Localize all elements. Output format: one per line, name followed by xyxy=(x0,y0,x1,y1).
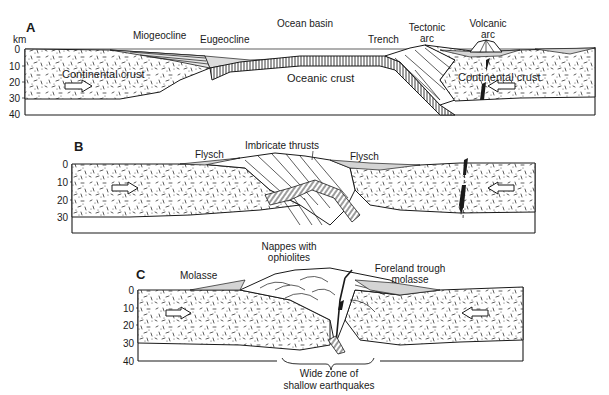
svg-text:30: 30 xyxy=(57,212,69,223)
svg-text:0: 0 xyxy=(128,285,134,296)
panel-letter-b: B xyxy=(74,139,83,154)
label-trench: Trench xyxy=(368,34,399,45)
svg-text:30: 30 xyxy=(123,338,135,349)
svg-text:40: 40 xyxy=(123,356,135,367)
molasse-left xyxy=(190,280,245,290)
label-shallow-earthquakes: Wide zone of xyxy=(300,368,359,379)
svg-text:arc: arc xyxy=(420,33,434,44)
orogeny-cross-section-diagram: A km 0 10 20 30 40 xyxy=(0,0,609,395)
svg-text:0: 0 xyxy=(14,44,20,55)
label-continental-crust-left: Continental crust xyxy=(62,68,145,80)
label-tectonic-arc: Tectonic xyxy=(409,22,446,33)
continental-crust-right-c xyxy=(345,287,523,345)
svg-text:molasse: molasse xyxy=(391,274,429,285)
label-nappes-with-ophiolites: Nappes with xyxy=(261,241,316,252)
svg-text:30: 30 xyxy=(9,93,21,104)
svg-text:10: 10 xyxy=(57,177,69,188)
svg-text:10: 10 xyxy=(123,303,135,314)
panel-a: A km 0 10 20 30 40 xyxy=(9,18,595,120)
slab-remnant-c xyxy=(328,336,345,354)
svg-text:ophiolites: ophiolites xyxy=(268,252,310,263)
label-oceanic-crust: Oceanic crust xyxy=(287,72,354,84)
panel-letter-c: C xyxy=(136,267,146,282)
label-eugeocline: Eugeocline xyxy=(200,34,250,45)
label-flysch-left: Flysch xyxy=(195,149,224,160)
svg-text:shallow earthquakes: shallow earthquakes xyxy=(283,380,374,391)
label-imbricate-thrusts: Imbricate thrusts xyxy=(245,140,319,151)
panel-letter-a: A xyxy=(26,20,36,35)
label-volcanic-arc: Volcanic xyxy=(469,18,506,29)
label-continental-crust-right: Continental crust xyxy=(458,71,541,83)
svg-text:arc: arc xyxy=(481,29,495,40)
svg-text:20: 20 xyxy=(123,320,135,331)
label-miogeocline: Miogeocline xyxy=(133,30,187,41)
svg-text:10: 10 xyxy=(9,61,21,72)
panel-b: B 0 10 20 30 xyxy=(57,139,535,233)
svg-text:40: 40 xyxy=(9,109,21,120)
svg-text:20: 20 xyxy=(9,77,21,88)
label-flysch-right: Flysch xyxy=(350,151,379,162)
svg-text:20: 20 xyxy=(57,195,69,206)
svg-text:0: 0 xyxy=(62,159,68,170)
label-ocean-basin: Ocean basin xyxy=(277,18,333,29)
panel-c: C 0 10 20 30 40 xyxy=(123,241,523,391)
label-foreland-trough-molasse: Foreland trough xyxy=(375,263,446,274)
label-molasse: Molasse xyxy=(180,270,218,281)
